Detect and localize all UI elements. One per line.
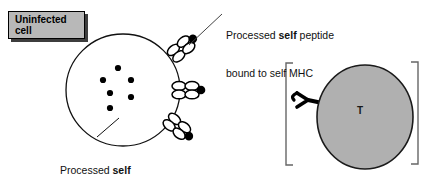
bound-self-peptide-dot: [197, 86, 206, 95]
peptide-dot: [107, 90, 113, 96]
uninfected-cell-callout-box: Uninfected cell: [8, 11, 85, 39]
annotation-mhc-peptide-line2: bound to self MHC: [226, 67, 334, 80]
annotation-line1-pre: Processed: [60, 164, 113, 175]
peptide-dot: [115, 65, 121, 71]
mhc-domain: [185, 90, 199, 99]
uninfected-cell-group: [66, 14, 222, 146]
uninfected-cell-callout-label: Uninfected cell: [15, 14, 67, 37]
annotation-mhc-peptide: Processed self peptide bound to self MHC: [226, 4, 334, 104]
annotation-mhc-peptide-line1: Processed self peptide: [226, 29, 334, 42]
annotation-line1-post: peptide: [297, 29, 334, 41]
annotation-line1-pre: Processed: [226, 29, 279, 41]
mhc-domain: [172, 90, 186, 99]
t-cell-letter: T: [357, 105, 363, 116]
uninfected-cell-body: [66, 34, 180, 146]
annotation-line1-bold: self: [279, 29, 297, 41]
figure-canvas: Uninfected cell Processed self peptide b…: [0, 0, 430, 175]
mhc-domain: [172, 82, 186, 91]
peptide-dot: [128, 77, 134, 83]
peptide-dot: [107, 105, 113, 111]
peptide-dot: [100, 77, 106, 83]
annotation-peptides-line1: Processed self: [60, 164, 131, 175]
peptide-dot: [128, 94, 134, 100]
annotation-processed-self-peptides: Processed self peptides: [60, 139, 131, 175]
annotation-line1-bold: self: [113, 164, 131, 175]
mhc-molecule-middle: [172, 82, 205, 99]
leader-line-mhc-annotation: [189, 14, 222, 45]
